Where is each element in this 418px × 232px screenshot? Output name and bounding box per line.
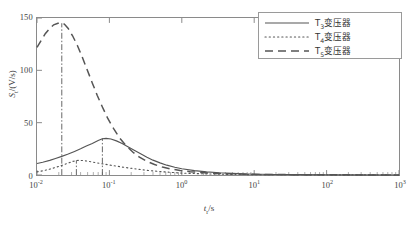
legend-item: T5变压器 [264,44,396,58]
x-tick-label: 10-2 [29,178,43,190]
legend-key-dotted [264,32,310,42]
x-axis-label-unit: /s [208,203,214,213]
x-tick-label: 10-1 [102,178,116,190]
legend-label: T4变压器 [315,30,351,44]
x-axis-tick-labels: 10-210-1100101102103 [36,178,400,194]
x-tick-label: 101 [249,178,261,190]
legend-item: T4变压器 [264,30,396,44]
y-axis-label: St/(V/s) [7,49,19,119]
x-tick-label: 100 [176,178,188,190]
legend-item: T3变压器 [264,16,396,30]
y-axis-label-symbol: S [7,93,17,98]
legend-label: T3变压器 [315,16,351,30]
x-tick-label: 102 [321,178,333,190]
y-axis-label-subscript: t [12,91,19,93]
figure-container: 050100150 St/(V/s) 10-210-1100101102103 … [0,0,418,232]
data-series-line [37,138,399,175]
y-tick-label: 100 [20,65,33,75]
legend-key-dashed [264,46,310,56]
legend-label: T5变压器 [315,44,351,58]
legend-key-solid [264,18,310,28]
x-axis-label: tr/s [0,203,418,215]
chart-legend: T3变压器T4变压器T5变压器 [258,12,402,59]
y-axis-label-unit: /(V/s) [7,70,17,91]
y-tick-label: 150 [20,12,33,22]
y-tick-label: 50 [24,118,33,128]
x-tick-label: 103 [394,178,406,190]
